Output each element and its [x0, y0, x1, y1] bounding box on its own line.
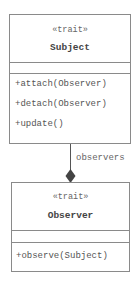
subject-stereotype: «trait» — [10, 25, 130, 35]
subject-class-name: Subject — [10, 42, 130, 53]
composition-diamond-icon — [65, 169, 76, 183]
class-box-observer: «trait» Observer +observe(Subject) — [11, 182, 130, 272]
observer-methods-compartment: +observe(Subject) — [12, 242, 129, 271]
observer-attributes-compartment — [12, 230, 129, 242]
subject-methods-compartment: +attach(Observer) +detach(Observer) +upd… — [10, 73, 130, 143]
composition-line — [70, 144, 71, 172]
subject-method-detach: +detach(Observer) — [15, 99, 107, 109]
subject-method-attach: +attach(Observer) — [15, 79, 107, 89]
relationship-label: observers — [76, 153, 125, 163]
observer-method-observe: +observe(Subject) — [16, 251, 108, 261]
subject-attributes-compartment — [10, 62, 130, 73]
observer-stereotype: «trait» — [12, 192, 129, 202]
class-box-subject: «trait» Subject +attach(Observer) +detac… — [9, 14, 131, 144]
subject-method-update: +update() — [15, 119, 64, 129]
observer-class-name: Observer — [12, 210, 129, 221]
